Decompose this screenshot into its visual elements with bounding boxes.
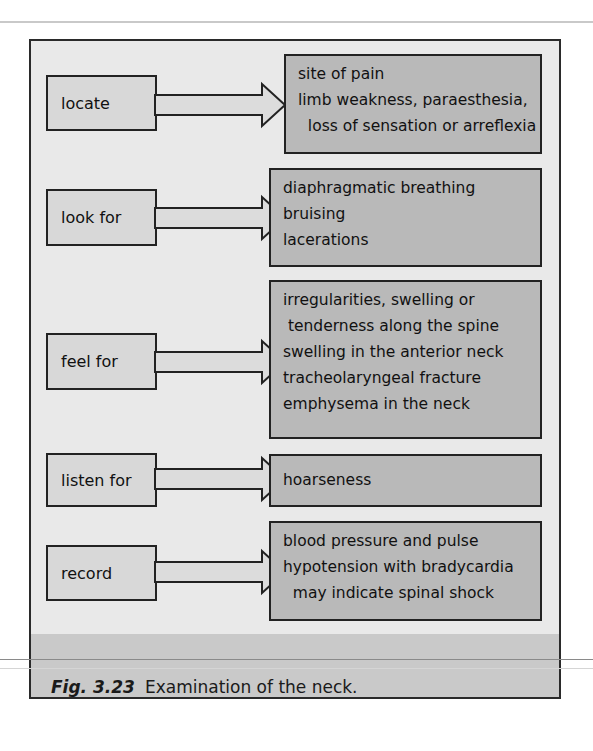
detail-item: hoarseness (283, 467, 540, 493)
action-label: record (61, 564, 112, 583)
figure-number: Fig. 3.23 (51, 677, 135, 697)
action-box-look-for: look for (46, 189, 157, 246)
detail-item: site of pain (298, 61, 540, 87)
detail-box-locate: site of pain limb weakness, paraesthesia… (284, 54, 542, 154)
figure-caption: Fig. 3.23Examination of the neck. (51, 677, 358, 697)
action-box-record: record (46, 545, 157, 601)
detail-box-record: blood pressure and pulse hypotension wit… (269, 521, 542, 621)
figure-caption-text: Examination of the neck. (145, 677, 358, 697)
detail-item: limb weakness, paraesthesia, (298, 87, 540, 113)
detail-item: blood pressure and pulse (283, 528, 540, 554)
arrow-icon (155, 551, 287, 593)
arrow-icon (155, 197, 287, 239)
action-label: feel for (61, 352, 118, 371)
action-label: locate (61, 94, 110, 113)
detail-item: irregularities, swelling or (283, 287, 540, 313)
action-box-feel-for: feel for (46, 333, 157, 390)
detail-item: swelling in the anterior neck (283, 339, 540, 365)
action-label: listen for (61, 471, 132, 490)
detail-box-feel-for: irregularities, swelling or tenderness a… (269, 280, 542, 439)
top-rule (0, 21, 593, 23)
action-label: look for (61, 208, 121, 227)
action-box-listen-for: listen for (46, 453, 157, 507)
detail-item: diaphragmatic breathing (283, 175, 540, 201)
detail-item: bruising (283, 201, 540, 227)
detail-item: lacerations (283, 227, 540, 253)
detail-item: emphysema in the neck (283, 391, 540, 417)
detail-item: loss of sensation or arreflexia (298, 113, 540, 139)
detail-item: tenderness along the spine (283, 313, 540, 339)
detail-item: hypotension with bradycardia (283, 554, 540, 580)
arrow-icon (155, 84, 287, 126)
detail-item: tracheolaryngeal fracture (283, 365, 540, 391)
arrow-icon (155, 341, 287, 383)
arrow-icon (155, 458, 287, 500)
bottom-rule (0, 659, 593, 660)
action-box-locate: locate (46, 75, 157, 131)
detail-box-look-for: diaphragmatic breathing bruising lacerat… (269, 168, 542, 267)
bottom-rule-2 (0, 668, 593, 669)
detail-item: may indicate spinal shock (283, 580, 540, 606)
detail-box-listen-for: hoarseness (269, 454, 542, 507)
